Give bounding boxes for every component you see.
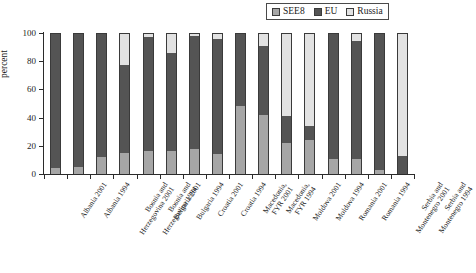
bar-segment-see8: [235, 106, 246, 174]
bar-segment-see8: [166, 151, 177, 174]
bar-segment-eu: [212, 39, 223, 155]
chart-legend: SEE8 EU Russia: [266, 3, 389, 20]
plot-area: [44, 33, 414, 174]
x-tick-mark: [90, 175, 91, 179]
legend-swatch-see8: [272, 8, 280, 16]
legend-swatch-russia: [346, 8, 354, 16]
bar-segment-eu: [258, 46, 269, 115]
y-tick-label: 100: [10, 29, 36, 38]
legend-item-eu: EU: [314, 6, 338, 17]
bar-segment-see8: [50, 168, 61, 174]
bar-bosnia-and-herzegovina-2001[interactable]: [96, 33, 107, 174]
bar-croatia-1994[interactable]: [212, 33, 223, 174]
bar-segment-russia: [351, 33, 362, 41]
x-tick-mark: [298, 175, 299, 179]
bar-segment-see8: [328, 159, 339, 175]
bar-segment-see8: [374, 170, 385, 174]
bar-segment-eu: [119, 65, 130, 152]
bar-segment-eu: [351, 41, 362, 158]
bar-romania-2001[interactable]: [328, 33, 339, 174]
bar-segment-russia: [166, 33, 177, 53]
y-tick-label: 60: [10, 85, 36, 94]
legend-swatch-eu: [314, 8, 322, 16]
legend-item-russia: Russia: [346, 6, 382, 17]
bar-bulgaria-2001[interactable]: [143, 33, 154, 174]
bar-segment-see8: [143, 151, 154, 174]
x-tick-mark: [206, 175, 207, 179]
x-tick-mark: [345, 175, 346, 179]
bar-segment-see8: [212, 154, 223, 174]
bar-segment-see8: [96, 157, 107, 174]
bar-croatia-2001[interactable]: [189, 33, 200, 174]
bar-segment-see8: [351, 159, 362, 175]
bar-segment-eu: [397, 156, 408, 174]
bar-segment-eu: [96, 33, 107, 157]
bar-segment-eu: [166, 53, 177, 152]
legend-label-russia: Russia: [357, 6, 382, 17]
x-tick-mark: [368, 175, 369, 179]
x-tick-mark: [160, 175, 161, 179]
y-tick-label: 40: [10, 113, 36, 122]
x-tick-mark: [137, 175, 138, 179]
bar-segment-eu: [189, 36, 200, 149]
y-tick-label: 80: [10, 57, 36, 66]
bar-romania-1994[interactable]: [351, 33, 362, 174]
x-tick-mark: [391, 175, 392, 179]
x-tick-mark: [113, 175, 114, 179]
bar-segment-russia: [119, 33, 130, 65]
bar-albania-2001[interactable]: [50, 33, 61, 174]
y-axis-title: percent: [0, 50, 9, 78]
bar-segment-see8: [73, 167, 84, 174]
x-tick-mark: [275, 175, 276, 179]
bar-segment-russia: [397, 33, 408, 156]
bar-moldova-1994[interactable]: [304, 33, 315, 174]
bar-moldova-2001[interactable]: [281, 33, 292, 174]
x-tick-mark: [44, 175, 45, 179]
legend-item-see8: SEE8: [272, 6, 305, 17]
y-tick-label: 0: [10, 170, 36, 179]
bar-segment-see8: [281, 143, 292, 174]
bar-serbia-and-montenegro-2001[interactable]: [374, 33, 385, 174]
x-tick-mark: [414, 175, 415, 179]
bar-segment-eu: [281, 116, 292, 143]
legend-label-eu: EU: [325, 6, 338, 17]
bar-segment-eu: [304, 126, 315, 140]
bar-albania-1994[interactable]: [73, 33, 84, 174]
legend-label-see8: SEE8: [283, 6, 305, 17]
x-tick-mark: [183, 175, 184, 179]
bar-segment-see8: [304, 140, 315, 174]
bar-segment-see8: [258, 115, 269, 174]
bar-bulgaria-1994[interactable]: [166, 33, 177, 174]
bar-segment-see8: [119, 153, 130, 174]
y-tick-label: 20: [10, 141, 36, 150]
bar-segment-eu: [50, 33, 61, 168]
bar-macedonia-fyr-1994[interactable]: [258, 33, 269, 174]
bar-segment-eu: [73, 33, 84, 167]
bar-segment-see8: [189, 149, 200, 174]
bar-segment-eu: [374, 33, 385, 170]
bar-segment-russia: [281, 33, 292, 116]
bar-segment-eu: [328, 33, 339, 158]
bar-segment-russia: [258, 33, 269, 46]
x-tick-mark: [252, 175, 253, 179]
bar-macedonia-fyr-2001[interactable]: [235, 33, 246, 174]
x-tick-mark: [322, 175, 323, 179]
x-tick-mark: [229, 175, 230, 179]
x-tick-mark: [67, 175, 68, 179]
bar-segment-eu: [235, 33, 246, 106]
bar-segment-russia: [304, 33, 315, 126]
bar-segment-eu: [143, 37, 154, 151]
bar-bosnia-and-herzegovina-1994[interactable]: [119, 33, 130, 174]
bar-serbia-and-montenegro-1994[interactable]: [397, 33, 408, 174]
